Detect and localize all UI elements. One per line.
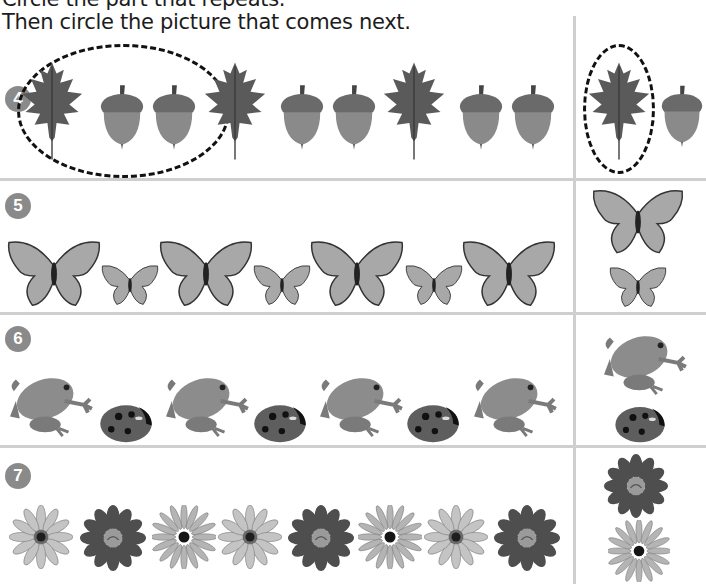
big-butterfly-image[interactable]: [157, 236, 255, 308]
choice-frog[interactable]: [600, 320, 688, 398]
choice-thin-daisy[interactable]: [608, 520, 670, 582]
frog-image[interactable]: [6, 362, 94, 440]
dark-gerbera-image[interactable]: [288, 505, 354, 571]
acorn-image[interactable]: [509, 82, 557, 152]
dark-gerbera-image[interactable]: [494, 505, 560, 571]
choice-acorn[interactable]: [659, 82, 705, 150]
row-divider: [0, 178, 706, 181]
choice-small-butterfly[interactable]: [608, 264, 668, 308]
vertical-divider: [573, 16, 576, 584]
row-divider: [0, 312, 706, 315]
small-butterfly-image[interactable]: [404, 262, 464, 306]
frog-image[interactable]: [470, 362, 558, 440]
small-butterfly-image[interactable]: [252, 262, 312, 306]
leaf-image[interactable]: [382, 56, 446, 166]
choice-leaf[interactable]: [587, 56, 651, 166]
problem-number-badge: 6: [5, 326, 31, 352]
ladybug-image[interactable]: [404, 398, 462, 444]
light-daisy-image[interactable]: [218, 505, 282, 569]
ladybug-image[interactable]: [97, 398, 155, 444]
problem-number-badge: 7: [5, 463, 31, 489]
big-butterfly-image[interactable]: [460, 236, 558, 308]
leaf-image[interactable]: [203, 56, 267, 166]
choice-big-butterfly[interactable]: [590, 185, 686, 255]
leaf-image[interactable]: [20, 56, 84, 166]
choice-dark-gerbera[interactable]: [604, 454, 668, 518]
frog-image[interactable]: [316, 362, 404, 440]
small-butterfly-image[interactable]: [100, 262, 160, 306]
acorn-image[interactable]: [330, 82, 378, 152]
light-daisy-image[interactable]: [9, 505, 73, 569]
big-butterfly-image[interactable]: [5, 236, 103, 308]
choice-ladybug[interactable]: [612, 400, 668, 444]
big-butterfly-image[interactable]: [308, 236, 406, 308]
thin-daisy-image[interactable]: [152, 505, 216, 569]
acorn-image[interactable]: [457, 82, 505, 152]
problem-number-badge: 5: [5, 193, 31, 219]
instruction-line-2: Then circle the picture that comes next.: [2, 10, 411, 34]
thin-daisy-image[interactable]: [358, 505, 422, 569]
acorn-image[interactable]: [98, 82, 146, 152]
acorn-image[interactable]: [278, 82, 326, 152]
light-daisy-image[interactable]: [424, 505, 488, 569]
row-divider: [0, 445, 706, 448]
dark-gerbera-image[interactable]: [80, 505, 146, 571]
acorn-image[interactable]: [150, 82, 198, 152]
ladybug-image[interactable]: [251, 398, 309, 444]
frog-image[interactable]: [162, 362, 250, 440]
